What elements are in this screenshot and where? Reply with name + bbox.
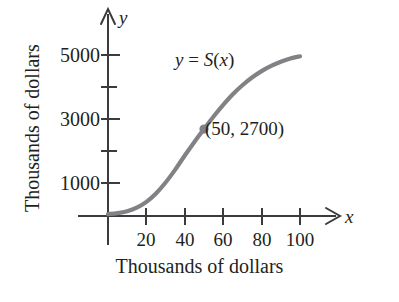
x-axis-caption: Thousands of dollars	[0, 256, 399, 276]
y-tick-label-3000: 3000	[38, 109, 100, 129]
curve-equation-paren-close: )	[228, 49, 234, 70]
curve-equation-argument: x	[219, 49, 227, 70]
x-tick-label-80: 80	[242, 230, 282, 249]
curve-equation-operator: =	[188, 49, 199, 70]
y-axis-caption: Thousands of dollars	[22, 44, 42, 212]
y-tick-label-5000: 5000	[38, 45, 100, 65]
point-annotation-label: (50, 2700)	[205, 119, 284, 138]
x-tick-label-20: 20	[126, 230, 166, 249]
x-tick-label-60: 60	[203, 230, 243, 249]
y-axis-symbol: y	[119, 8, 127, 27]
y-tick-label-1000: 1000	[38, 173, 100, 193]
x-tick-label-100: 100	[280, 230, 320, 249]
figure-container: 5000 3000 1000 20 40 60 80 100 x y y = S…	[0, 0, 399, 302]
curve-equation-function: S	[204, 49, 214, 70]
x-tick-label-40: 40	[165, 230, 205, 249]
curve-equation-label: y = S(x)	[175, 50, 234, 69]
x-axis-symbol: x	[345, 207, 353, 226]
